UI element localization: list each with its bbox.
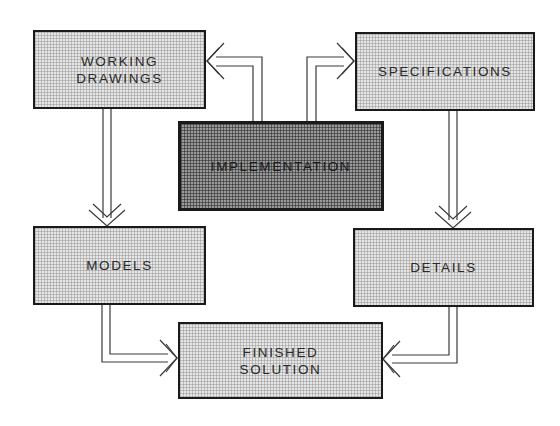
node-models: MODELS	[33, 226, 206, 305]
arrow-implementation-to-specifications	[307, 43, 354, 121]
node-label: SPECIFICATIONS	[378, 63, 512, 80]
node-details: DETAILS	[353, 228, 534, 307]
arrow-specifications-to-details	[435, 110, 471, 228]
node-finished-solution: FINISHED SOLUTION	[178, 322, 383, 399]
node-implementation: IMPLEMENTATION	[178, 121, 384, 211]
arrow-details-to-finished-solution	[383, 306, 457, 377]
arrow-implementation-to-working-drawings	[207, 43, 262, 121]
node-label: MODELS	[86, 257, 153, 274]
node-label: IMPLEMENTATION	[211, 158, 351, 175]
arrow-working-drawings-to-models	[89, 108, 125, 226]
node-label: DETAILS	[410, 259, 476, 276]
arrow-models-to-finished-solution	[102, 304, 177, 376]
node-working-drawings: WORKING DRAWINGS	[33, 30, 206, 109]
node-label: FINISHED SOLUTION	[240, 344, 322, 378]
node-specifications: SPECIFICATIONS	[355, 32, 535, 111]
node-label: WORKING DRAWINGS	[76, 53, 163, 87]
